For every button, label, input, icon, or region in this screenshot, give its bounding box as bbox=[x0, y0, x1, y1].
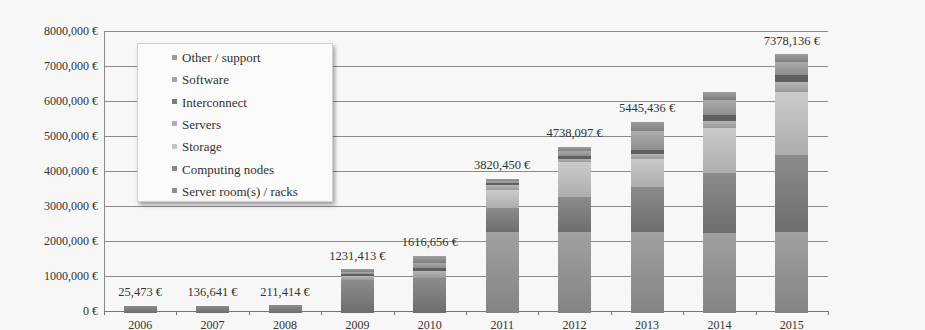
bar-segment bbox=[558, 158, 591, 162]
legend-label: Software bbox=[182, 72, 229, 87]
bar-segment bbox=[486, 207, 519, 232]
y-tick-label: 7000,000 € bbox=[0, 60, 98, 72]
bar-segment bbox=[413, 277, 446, 313]
stacked-bar-chart: 0 €1000,000 €2000,000 €3000,000 €4000,00… bbox=[0, 0, 925, 330]
bar-segment bbox=[558, 197, 591, 233]
bar-2009 bbox=[341, 268, 374, 313]
gridline bbox=[104, 31, 828, 32]
y-axis-line bbox=[104, 31, 105, 311]
legend-swatch-icon bbox=[172, 166, 177, 171]
legend-item: Other / support bbox=[172, 50, 261, 66]
bar-segment bbox=[341, 279, 374, 313]
total-value-label: 211,414 € bbox=[230, 285, 340, 300]
legend-item: Servers bbox=[172, 117, 221, 133]
bar-segment bbox=[703, 173, 736, 233]
legend-swatch-icon bbox=[172, 77, 177, 82]
legend-item: Interconnect bbox=[172, 95, 247, 111]
x-tick bbox=[249, 311, 250, 315]
bar-segment bbox=[413, 262, 446, 268]
total-value-label: 1231,413 € bbox=[302, 249, 412, 264]
x-tick bbox=[538, 311, 539, 315]
bar-segment bbox=[631, 131, 664, 151]
bar-segment bbox=[341, 269, 374, 272]
bar-segment bbox=[775, 232, 808, 313]
bar-segment bbox=[631, 158, 664, 187]
y-tick-label: 0 € bbox=[0, 305, 98, 317]
bar-segment bbox=[703, 115, 736, 121]
x-tick-label: 2015 bbox=[756, 318, 828, 330]
bar-2012 bbox=[558, 145, 591, 313]
bar-2010 bbox=[413, 254, 446, 313]
legend-swatch-icon bbox=[172, 188, 177, 193]
bar-segment bbox=[413, 267, 446, 271]
legend-swatch-icon bbox=[172, 99, 177, 104]
bar-2006 bbox=[124, 304, 157, 313]
bar-segment bbox=[703, 92, 736, 100]
bar-segment bbox=[486, 179, 519, 181]
legend-item: Computing nodes bbox=[172, 162, 274, 178]
x-tick bbox=[176, 311, 177, 315]
legend-label: Server room(s) / racks bbox=[182, 184, 298, 199]
legend-item: Storage bbox=[172, 139, 222, 155]
x-tick-label: 2007 bbox=[177, 318, 249, 330]
y-tick-label: 5000,000 € bbox=[0, 130, 98, 142]
bar-segment bbox=[413, 256, 446, 263]
bar-segment bbox=[775, 92, 808, 156]
legend-label: Computing nodes bbox=[182, 162, 274, 177]
legend-swatch-icon bbox=[172, 121, 177, 126]
bar-segment bbox=[558, 232, 591, 313]
x-tick bbox=[611, 311, 612, 315]
y-tick-label: 6000,000 € bbox=[0, 95, 98, 107]
bar-segment bbox=[269, 305, 302, 313]
bar-2014 bbox=[703, 91, 736, 314]
total-value-label: 4738,097 € bbox=[520, 126, 630, 141]
y-tick-label: 3000,000 € bbox=[0, 200, 98, 212]
bar-segment bbox=[558, 155, 591, 159]
x-tick-label: 2010 bbox=[394, 318, 466, 330]
x-tick-label: 2008 bbox=[249, 318, 321, 330]
legend-item: Server room(s) / racks bbox=[172, 184, 298, 200]
bar-segment bbox=[558, 162, 591, 198]
bar-segment bbox=[631, 150, 664, 154]
bar-segment bbox=[486, 232, 519, 313]
bar-2007 bbox=[196, 304, 229, 313]
x-tick bbox=[756, 311, 757, 315]
bar-segment bbox=[486, 185, 519, 191]
bar-segment bbox=[558, 147, 591, 151]
x-tick-label: 2006 bbox=[104, 318, 176, 330]
bar-segment bbox=[775, 74, 808, 82]
bar-segment bbox=[703, 232, 736, 313]
y-tick-label: 4000,000 € bbox=[0, 165, 98, 177]
x-tick-label: 2012 bbox=[539, 318, 611, 330]
x-tick-label: 2013 bbox=[611, 318, 683, 330]
legend-swatch-icon bbox=[172, 55, 177, 60]
x-tick bbox=[394, 311, 395, 315]
legend-swatch-icon bbox=[172, 144, 177, 149]
bar-segment bbox=[775, 81, 808, 92]
y-tick-label: 1000,000 € bbox=[0, 270, 98, 282]
bar-segment bbox=[558, 150, 591, 156]
bar-2013 bbox=[631, 120, 664, 313]
bar-2015 bbox=[775, 53, 808, 313]
bar-segment bbox=[631, 186, 664, 232]
bar-segment bbox=[631, 122, 664, 131]
bar-segment bbox=[775, 155, 808, 233]
legend: Other / supportSoftwareInterconnectServe… bbox=[137, 43, 333, 202]
x-tick-label: 2011 bbox=[466, 318, 538, 330]
y-tick-label: 2000,000 € bbox=[0, 235, 98, 247]
legend-item: Software bbox=[172, 72, 229, 88]
bar-segment bbox=[775, 54, 808, 62]
x-tick bbox=[466, 311, 467, 315]
bar-segment bbox=[486, 190, 519, 208]
x-tick bbox=[321, 311, 322, 315]
legend-label: Interconnect bbox=[182, 95, 247, 110]
legend-label: Servers bbox=[182, 117, 221, 132]
legend-label: Other / support bbox=[182, 50, 261, 65]
bar-segment bbox=[703, 120, 736, 128]
total-value-label: 7378,136 € bbox=[737, 34, 847, 49]
bar-segment bbox=[341, 276, 374, 280]
bar-2008 bbox=[269, 304, 302, 313]
total-value-label: 3820,450 € bbox=[447, 158, 557, 173]
bar-segment bbox=[703, 99, 736, 115]
bar-segment bbox=[703, 127, 736, 173]
